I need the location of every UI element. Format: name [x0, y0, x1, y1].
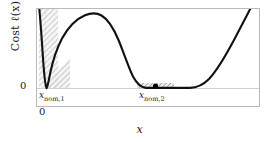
annotation-x-nom-2-sub: nom,2	[144, 95, 164, 103]
annotation-x-nom-1-sub: nom,1	[44, 95, 64, 103]
cost-curve	[39, 6, 252, 88]
nominal-point-marker-2	[153, 83, 158, 88]
annotation-x-nom-2: xnom,2	[139, 90, 165, 103]
plot-canvas	[0, 0, 279, 142]
figure-container: Cost ℓ(x) 0 0 x	[0, 0, 279, 142]
annotation-x-nom-1: xnom,1	[39, 90, 65, 103]
